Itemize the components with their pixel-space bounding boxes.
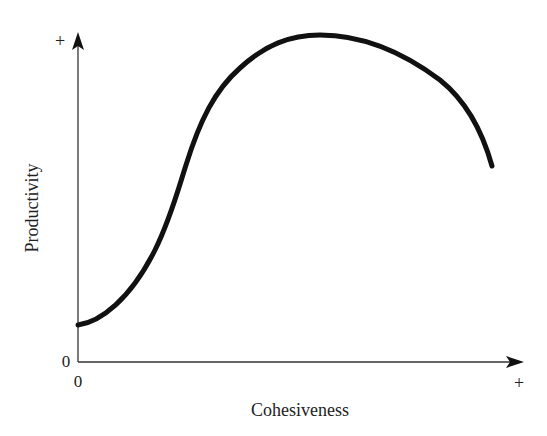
y-axis-title: Productivity [22,164,42,253]
y-axis-zero-label: 0 [62,352,71,371]
x-axis-plus-label: + [514,373,524,393]
chart: + 0 0 + Cohesiveness Productivity [0,0,547,436]
x-axis-title: Cohesiveness [251,400,349,420]
x-axis-zero-label: 0 [74,372,83,391]
y-axis-plus-label: + [55,31,65,51]
productivity-curve [78,35,492,325]
